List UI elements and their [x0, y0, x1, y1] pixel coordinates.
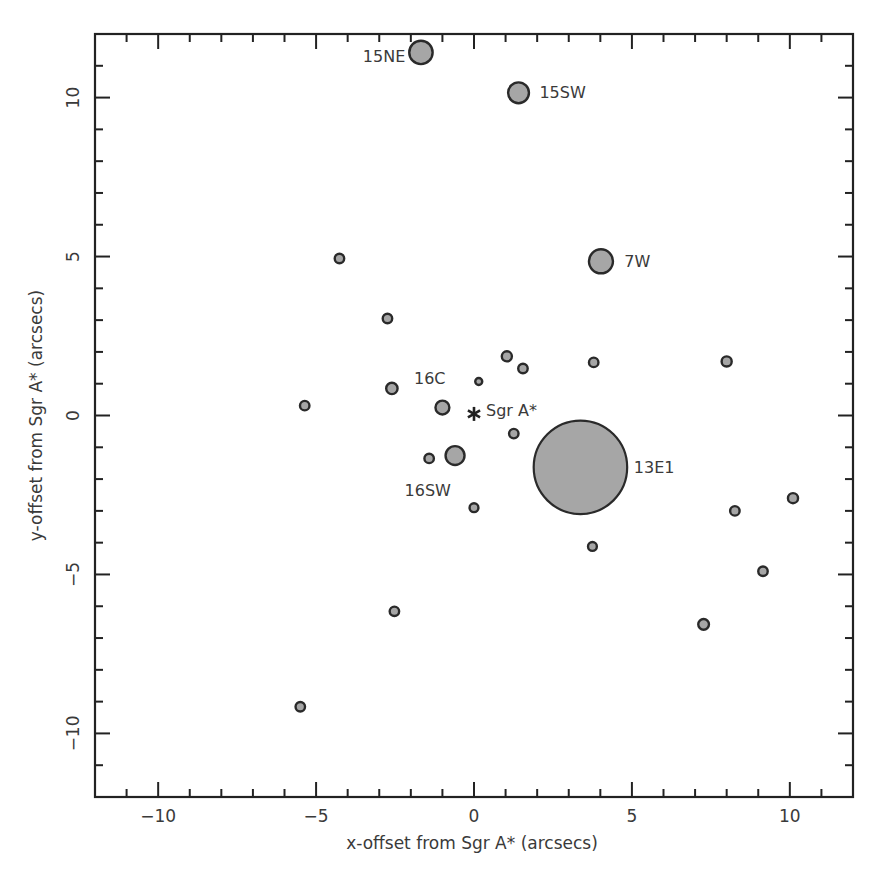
star-point — [730, 506, 739, 515]
star-point — [758, 567, 767, 576]
x-tick-label: 10 — [779, 806, 801, 826]
star-point — [722, 356, 732, 366]
star-13e1 — [534, 421, 627, 514]
star-point — [518, 364, 527, 373]
x-tick-label: −5 — [304, 806, 329, 826]
x-tick-label: 5 — [627, 806, 638, 826]
scatter-chart: 13E115NE15SW7W16C16SW Sgr A* −10−50510−1… — [0, 0, 878, 885]
asterisk-icon — [468, 407, 480, 421]
y-tick-label: 5 — [63, 251, 83, 262]
star-point — [788, 493, 798, 503]
label-sgr-a-star: Sgr A* — [486, 401, 537, 420]
star-16sw — [446, 446, 465, 465]
x-tick-label: 0 — [469, 806, 480, 826]
label-16c: 16C — [414, 369, 446, 388]
star-15ne — [409, 41, 432, 64]
y-axis-label: y-offset from Sgr A* (arcsecs) — [26, 290, 46, 541]
star-point — [470, 503, 479, 512]
y-tick-label: 0 — [63, 410, 83, 421]
star-point — [424, 454, 433, 463]
star-16c — [435, 401, 449, 415]
star-point — [509, 429, 518, 438]
label-7w: 7W — [624, 252, 650, 271]
star-15sw — [508, 82, 529, 103]
star-point — [698, 619, 709, 630]
y-tick-label: 10 — [63, 87, 83, 109]
star-point — [390, 607, 399, 616]
star-point — [386, 383, 397, 394]
y-tick-label: −10 — [63, 715, 83, 751]
star-point — [589, 358, 598, 367]
label-16sw: 16SW — [405, 481, 452, 500]
star-7w — [589, 249, 613, 273]
star-point — [335, 254, 344, 263]
star-point — [383, 314, 392, 323]
y-tick-label: −5 — [63, 562, 83, 587]
label-15sw: 15SW — [539, 83, 586, 102]
x-tick-label: −10 — [140, 806, 176, 826]
star-point — [502, 351, 512, 361]
star-point — [475, 378, 482, 385]
star-point — [296, 702, 305, 711]
star-point — [300, 401, 309, 410]
sgr-a-star-marker: Sgr A* — [468, 401, 537, 421]
label-15ne: 15NE — [363, 47, 405, 66]
label-13e1: 13E1 — [634, 458, 675, 477]
x-axis-label: x-offset from Sgr A* (arcsecs) — [346, 833, 598, 853]
star-point — [588, 542, 597, 551]
data-points — [296, 41, 798, 712]
